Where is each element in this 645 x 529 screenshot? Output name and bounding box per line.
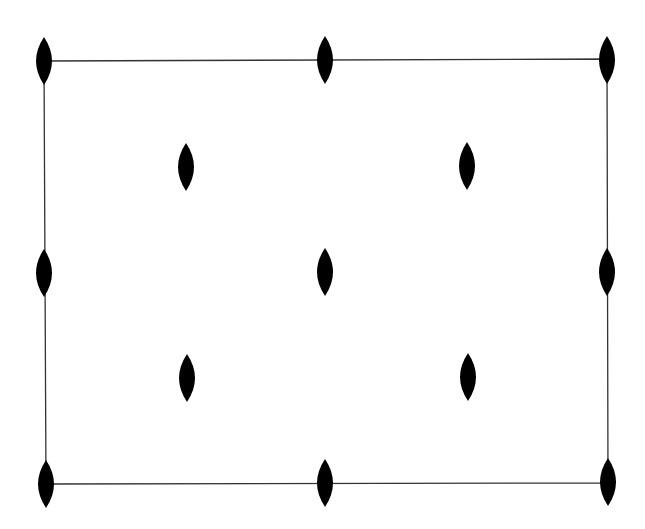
twofold-axis-icon [36, 249, 52, 297]
twofold-axis-icon [317, 459, 333, 507]
twofold-axis-icon [460, 353, 476, 401]
symmetry-diagram [0, 0, 645, 529]
twofold-axis-icon [36, 37, 52, 85]
twofold-axis-markers [36, 36, 616, 508]
twofold-axis-icon [317, 248, 333, 296]
twofold-axis-icon [178, 143, 194, 191]
twofold-axis-icon [459, 142, 475, 190]
twofold-axis-icon [599, 36, 615, 84]
twofold-axis-icon [179, 354, 195, 402]
twofold-axis-icon [317, 36, 333, 84]
twofold-axis-icon [599, 248, 615, 296]
twofold-axis-icon [600, 458, 616, 506]
twofold-axis-icon [38, 460, 54, 508]
